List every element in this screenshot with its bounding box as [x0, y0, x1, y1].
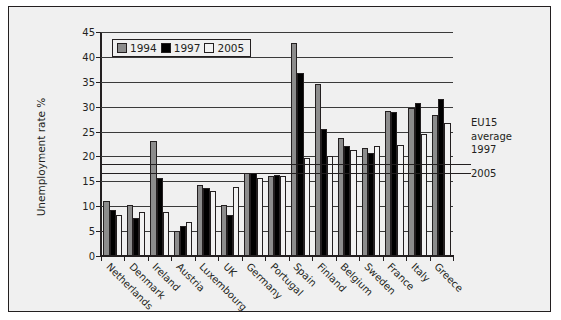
- bar-ireland-2005: [163, 212, 169, 256]
- bar-finland-2005: [327, 156, 333, 256]
- bar-portugal-2005: [280, 176, 286, 256]
- bar-group: [148, 32, 171, 256]
- eu15-average-1997-annotation: EU15average1997: [471, 116, 512, 157]
- bar-group: [289, 32, 312, 256]
- x-tick-mark: [430, 256, 431, 261]
- x-tick-mark: [218, 256, 219, 261]
- x-tick-mark: [383, 256, 384, 261]
- eu15-note-line-1: EU15: [471, 116, 512, 130]
- bar-italy-2005: [421, 134, 427, 256]
- bar-austria-2005: [186, 222, 192, 256]
- bar-group: [430, 32, 453, 256]
- bar-greece-2005: [444, 123, 450, 256]
- y-axis-title: Unemployment rate %: [35, 98, 47, 217]
- x-tick-mark: [312, 256, 313, 261]
- eu15-note-line-3: 1997: [471, 143, 512, 157]
- legend-swatch-1994: [117, 43, 127, 53]
- y-tick-label: 10: [82, 201, 95, 212]
- y-tick-label: 25: [82, 126, 95, 137]
- y-tick-label: 0: [89, 251, 95, 262]
- bar-group: [124, 32, 147, 256]
- x-tick-mark: [453, 256, 454, 261]
- bar-belgium-2005: [350, 150, 356, 256]
- chart-frame: Unemployment rate % 051015202530354045 N…: [8, 6, 551, 312]
- bar-group: [265, 32, 288, 256]
- bar-france-2005: [397, 145, 403, 256]
- bar-group: [101, 32, 124, 256]
- bar-group: [218, 32, 241, 256]
- x-tick-mark: [124, 256, 125, 261]
- legend-swatch-2005: [204, 43, 214, 53]
- x-tick-mark: [289, 256, 290, 261]
- x-tick-mark: [242, 256, 243, 261]
- x-label-uk: UK: [221, 261, 239, 279]
- eu15-note-line-2: average: [471, 130, 512, 144]
- x-tick-mark: [101, 256, 102, 261]
- reference-line-2005: [101, 164, 471, 165]
- bar-sweden-2005: [374, 146, 380, 257]
- bar-germany-2005: [257, 178, 263, 256]
- x-tick-mark: [265, 256, 266, 261]
- chart-legend: 199419972005: [112, 39, 251, 57]
- eu15-note-2005: 2005: [471, 168, 496, 179]
- bar-group: [336, 32, 359, 256]
- legend-item-1997: 1997: [161, 42, 201, 54]
- y-tick-label: 35: [82, 76, 95, 87]
- bar-group: [242, 32, 265, 256]
- bar-denmark-2005: [139, 212, 145, 256]
- bar-group: [383, 32, 406, 256]
- y-tick-label: 5: [89, 226, 95, 237]
- bar-uk-2005: [233, 187, 239, 256]
- x-tick-mark: [148, 256, 149, 261]
- plot-area: 051015202530354045 NetherlandsDenmarkIre…: [101, 32, 453, 256]
- x-tick-mark: [406, 256, 407, 261]
- bar-group: [312, 32, 335, 256]
- x-tick-mark: [195, 256, 196, 261]
- x-tick-mark: [171, 256, 172, 261]
- y-tick-label: 20: [82, 151, 95, 162]
- x-tick-mark: [359, 256, 360, 261]
- bar-netherlands-2005: [116, 215, 122, 256]
- x-tick-mark: [336, 256, 337, 261]
- bar-luxembourg-2005: [210, 191, 216, 256]
- y-tick-label: 15: [82, 176, 95, 187]
- eu15-average-2005-annotation: 2005: [471, 168, 496, 179]
- legend-item-1994: 1994: [117, 42, 157, 54]
- legend-label-1994: 1994: [130, 42, 157, 54]
- bar-group: [195, 32, 218, 256]
- x-label-greece: Greece: [432, 261, 465, 294]
- y-tick-label: 45: [82, 27, 95, 38]
- legend-swatch-1997: [161, 43, 171, 53]
- legend-item-2005: 2005: [204, 42, 244, 54]
- bar-group: [359, 32, 382, 256]
- legend-label-2005: 2005: [217, 42, 244, 54]
- bar-group: [171, 32, 194, 256]
- reference-line-1997: [101, 173, 471, 174]
- legend-label-1997: 1997: [174, 42, 201, 54]
- bar-group: [406, 32, 429, 256]
- y-tick-label: 40: [82, 51, 95, 62]
- y-tick-label: 30: [82, 101, 95, 112]
